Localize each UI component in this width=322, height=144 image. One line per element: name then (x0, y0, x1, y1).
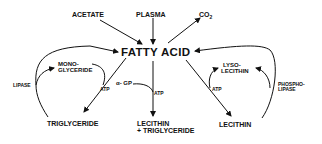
label-phospholipase: PHOSPHO-LIPASE (278, 82, 305, 93)
arrow-atp-to-lysolecithin (209, 68, 218, 88)
arrow-phospholipase-to-lysolecithin (256, 68, 270, 88)
label-co2: CO2 (199, 11, 212, 18)
arrow-lipase-to-monoglyceride (36, 68, 54, 85)
fatty-acid-metabolism-diagram: ACETATE PLASMA CO2 FATTY ACID MONO-GLYCE… (0, 0, 322, 144)
arrow-fatty-acid-to-co2 (168, 18, 200, 43)
label-acetate: ACETATE (72, 11, 104, 18)
label-atp-middle: ATP (154, 91, 164, 96)
label-plasma: PLASMA (136, 11, 166, 18)
label-atp-right: ATP (212, 87, 222, 92)
label-lecithin: LECITHIN (219, 121, 251, 128)
arrow-phospholipase-to-fatty-acid (195, 46, 275, 118)
label-triglyceride: TRIGLYCERIDE (47, 120, 98, 127)
label-monoglyceride: MONO-GLYCERIDE (58, 61, 92, 74)
arrow-acetate-to-fatty-acid (100, 20, 142, 44)
label-lysolecithin: LYSO-LECITHIN (221, 62, 249, 75)
arrow-monoglyceride-atp (92, 64, 105, 85)
arrow-triglyceride-to-lipase (36, 85, 48, 117)
arrow-alpha-gp (133, 84, 153, 92)
label-lipase: LIPASE (13, 83, 31, 88)
label-lecithin-triglyceride: LECITHIN+ TRIGLYCERIDE (137, 120, 195, 135)
label-atp-left: ATP (100, 87, 110, 92)
label-alpha-gp: α- GP (116, 80, 132, 86)
label-fatty-acid: FATTY ACID (121, 47, 190, 59)
